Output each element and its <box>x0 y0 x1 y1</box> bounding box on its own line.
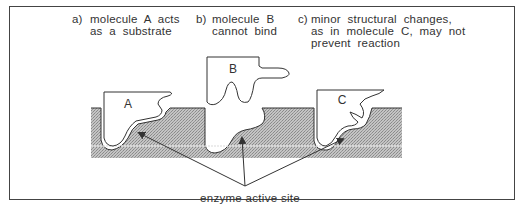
molecule-a-label: A <box>124 97 132 111</box>
molecule-b: B <box>207 57 289 105</box>
molecule-c-label: C <box>338 93 347 107</box>
molecule-b-label: B <box>229 62 237 76</box>
enzyme-active-site-label: enzyme active site <box>200 192 300 204</box>
enzyme-diagram: A B C <box>0 0 524 216</box>
